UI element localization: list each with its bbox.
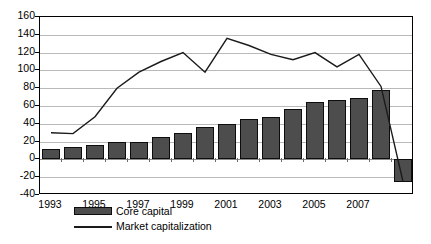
x-axis-tick [149,158,150,162]
y-axis-label: 80 [2,81,35,92]
plot-area [39,16,413,194]
x-axis-tick [215,158,216,162]
x-axis-tick [259,158,260,162]
line-series-market-capitalization [40,17,414,195]
x-axis-label: 2001 [206,198,246,210]
y-axis-label: 140 [2,28,35,39]
x-axis-tick [303,158,304,162]
x-axis-tick [369,158,370,162]
y-axis-label: 60 [2,99,35,110]
x-axis-tick [105,158,106,162]
legend-label-market-capitalization: Market capitalization [116,219,212,233]
line-swatch-icon [74,226,112,228]
y-axis-label: 100 [2,63,35,74]
x-axis-tick [391,158,392,162]
y-axis-label: 120 [2,46,35,57]
x-axis-tick [237,158,238,162]
y-axis-label: 20 [2,135,35,146]
x-axis-tick [325,158,326,162]
x-axis-tick [61,158,62,162]
y-axis-label: -20 [2,170,35,181]
legend-label-core-capital: Core capital [116,204,172,218]
y-axis-tick [35,194,39,195]
x-axis-tick [281,158,282,162]
x-axis-tick [193,158,194,162]
y-axis-label: 40 [2,117,35,128]
bar-swatch-icon [74,207,112,215]
x-axis-tick [347,158,348,162]
y-axis-label: 0 [2,152,35,163]
chart-figure: 160140120100806040200-20-40 199319951997… [0,0,431,244]
x-axis-tick [171,158,172,162]
y-axis-label: 160 [2,10,35,21]
x-axis-label: 2005 [294,198,334,210]
x-axis-label: 2007 [338,198,378,210]
x-axis-label: 1993 [30,198,70,210]
x-axis-tick [83,158,84,162]
x-axis-label: 2003 [250,198,290,210]
x-axis-tick [127,158,128,162]
